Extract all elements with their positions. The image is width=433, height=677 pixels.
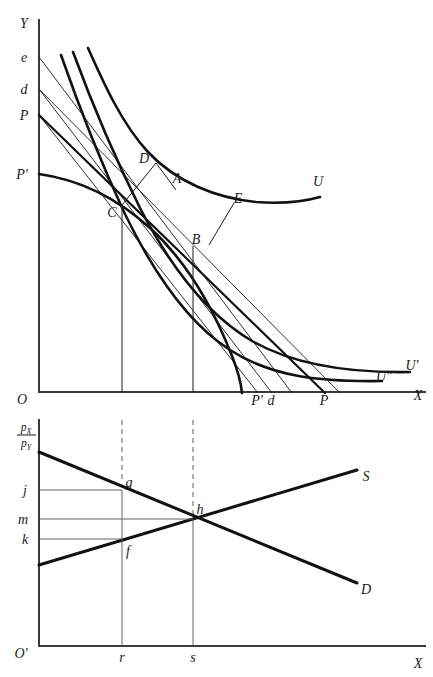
lower-origin-label: O' (14, 646, 28, 661)
point-label-C: C (107, 205, 117, 220)
upper-origin-label: O (17, 392, 27, 407)
lower-chart: pX pY j m k r s O' X S D g h f (14, 420, 425, 671)
curve-label-U: U (313, 174, 324, 189)
point-label-A: A (172, 171, 182, 186)
point-label-B: B (192, 232, 201, 247)
lower-x-axis-label: X (413, 656, 423, 671)
curve-label-D: D (360, 582, 371, 597)
upper-chart: e d P P' Y X O P' d P U U' U″ A B C D E (15, 16, 425, 408)
lower-xtick-r: r (119, 650, 125, 665)
supply-curve (39, 470, 357, 565)
lower-ytick-m: m (18, 512, 28, 527)
upper-x-axis-label: X (413, 388, 423, 403)
curve-label-U-double-prime: U″ (376, 369, 392, 384)
price-line-d2 (39, 89, 340, 393)
lower-y-label-numerator-sub: X (25, 427, 32, 436)
svg-text:pY: pY (20, 437, 33, 452)
lower-y-label-denominator-sub: Y (27, 443, 33, 452)
svg-text:pX: pX (20, 421, 33, 436)
upper-y-axis-label: Y (20, 16, 30, 31)
upper-ytick-Pprime: P' (15, 167, 29, 182)
curve-label-U-prime: U' (405, 358, 419, 373)
point-label-h: h (197, 502, 204, 517)
upper-ytick-d: d (21, 82, 29, 97)
lower-xtick-s: s (190, 650, 196, 665)
point-label-D: D (138, 151, 149, 166)
price-line-P (39, 115, 325, 393)
upper-xtick-d: d (268, 393, 276, 408)
price-line-d (39, 89, 272, 393)
economics-figure: e d P P' Y X O P' d P U U' U″ A B C D E (0, 0, 433, 677)
upper-ytick-e: e (21, 50, 27, 65)
lower-ytick-k: k (22, 532, 29, 547)
curve-label-S: S (363, 469, 370, 484)
lower-ytick-j: j (21, 483, 27, 498)
upper-xtick-P: P (319, 393, 329, 408)
upper-xtick-Pprime: P' (250, 393, 264, 408)
point-label-f: f (126, 544, 132, 559)
lower-y-axis-label: pX pY (17, 421, 36, 452)
segment-EB (209, 203, 234, 245)
point-label-E: E (233, 191, 243, 206)
point-label-g: g (126, 475, 133, 490)
figure-svg: e d P P' Y X O P' d P U U' U″ A B C D E (0, 0, 433, 677)
indifference-curve-U (88, 48, 320, 203)
upper-ytick-P: P (19, 108, 29, 123)
